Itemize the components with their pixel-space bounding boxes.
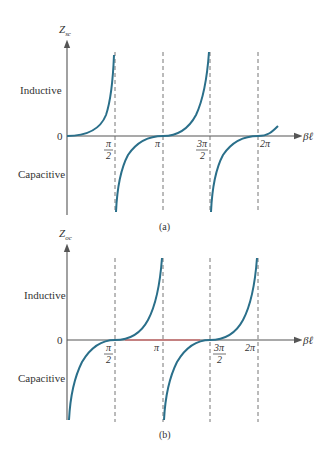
svg-text:2π: 2π <box>245 342 256 353</box>
capacitive-label-a: Capacitive <box>18 168 65 180</box>
svg-text:3π: 3π <box>213 342 225 353</box>
capacitive-label-b: Capacitive <box>18 372 65 384</box>
y-axis-label-a: Zsc <box>59 23 72 38</box>
zero-label-a: 0 <box>57 130 63 142</box>
tick-labels-a: π 2 π 3π 2 2π <box>104 138 271 161</box>
y-axis-label-b: Zoc <box>59 227 73 242</box>
x-axis-label-b: βℓ <box>302 334 313 346</box>
panel-a: Zsc Inductive Capacitive 0 βℓ π 2 π 3π 2… <box>18 23 313 233</box>
zero-label-b: 0 <box>57 334 63 346</box>
panel-b: Zoc Inductive Capacitive 0 βℓ π 2 π 3π 2… <box>18 227 313 441</box>
svg-text:2: 2 <box>217 354 222 365</box>
svg-text:π: π <box>106 342 112 353</box>
svg-text:π: π <box>106 138 112 149</box>
x-axis-label-a: βℓ <box>302 130 313 142</box>
tick-labels-b: π 2 π 3π 2 2π <box>104 342 256 365</box>
dashed-lines-a <box>115 52 258 212</box>
caption-b: (b) <box>159 429 171 441</box>
svg-text:2: 2 <box>106 354 111 365</box>
tan-curve-a <box>67 52 278 212</box>
inductive-label-b: Inductive <box>24 289 66 301</box>
svg-text:2: 2 <box>200 150 205 161</box>
svg-text:3π: 3π <box>196 138 208 149</box>
svg-text:π: π <box>154 342 160 353</box>
svg-text:2: 2 <box>106 150 111 161</box>
caption-a: (a) <box>159 221 170 233</box>
svg-text:π: π <box>155 138 161 149</box>
svg-text:2π: 2π <box>260 138 271 149</box>
inductive-label-a: Inductive <box>20 84 62 96</box>
impedance-diagram: Zsc Inductive Capacitive 0 βℓ π 2 π 3π 2… <box>0 0 335 466</box>
